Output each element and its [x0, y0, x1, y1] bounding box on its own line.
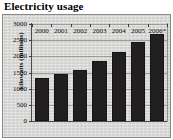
- gridline: [32, 56, 167, 57]
- x-tick-label: 2001: [51, 27, 70, 35]
- bar-2002: [73, 70, 87, 121]
- y-tick-mark: [29, 105, 32, 106]
- y-tick-label: 1000: [5, 85, 27, 93]
- bar-2006: [150, 34, 164, 121]
- x-tick-label: 2000: [32, 27, 51, 35]
- y-tick-label: 2000: [5, 52, 27, 60]
- x-tick-label: 2002: [71, 27, 90, 35]
- bar-2005: [131, 42, 145, 121]
- y-tick-label: 3000: [5, 20, 27, 28]
- bar-2003: [92, 61, 106, 121]
- x-tick-mark: [167, 24, 168, 27]
- x-axis-line: [32, 121, 167, 122]
- y-tick-label: 2500: [5, 36, 27, 44]
- x-tick-label: 2004: [109, 27, 128, 35]
- y-tick-mark: [29, 121, 32, 122]
- chart-figure: Electricity usage kilowatts (millions) 0…: [0, 0, 173, 140]
- y-tick-label: 500: [5, 101, 27, 109]
- page-title: Electricity usage: [4, 0, 169, 13]
- y-tick-mark: [29, 56, 32, 57]
- y-tick-mark: [29, 40, 32, 41]
- plot-area: 050010001500200025003000 200020012002200…: [32, 24, 167, 121]
- bar-2004: [112, 52, 126, 121]
- plot-right-border: [167, 23, 168, 122]
- y-tick-label: 0: [5, 117, 27, 125]
- x-tick-label: 2005: [128, 27, 147, 35]
- bar-2000: [35, 78, 49, 121]
- x-tick-label: 2003: [90, 27, 109, 35]
- y-tick-mark: [29, 89, 32, 90]
- bar-2001: [54, 74, 68, 121]
- y-tick-label: 1500: [5, 69, 27, 77]
- y-tick-mark: [29, 73, 32, 74]
- gridline: [32, 40, 167, 41]
- x-tick-label: 2006*: [148, 27, 167, 35]
- chart-panel: kilowatts (millions) 0500100015002000250…: [2, 14, 171, 138]
